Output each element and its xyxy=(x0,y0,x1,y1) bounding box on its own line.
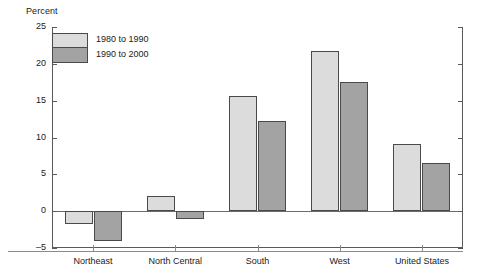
y-tick-5 xyxy=(458,174,463,175)
y-tick-5 xyxy=(52,174,57,175)
y-tick-15 xyxy=(458,101,463,102)
y-tick-10 xyxy=(458,138,463,139)
bar xyxy=(311,51,339,211)
legend-label-1980-1990: 1980 to 1990 xyxy=(96,32,149,47)
category-label-south: South xyxy=(246,256,270,266)
category-tick xyxy=(340,245,341,251)
bar xyxy=(393,144,421,211)
legend-label-group: 1980 to 1990 1990 to 2000 xyxy=(96,32,149,62)
category-tick xyxy=(422,245,423,251)
y-tick-0 xyxy=(458,211,463,212)
category-tick xyxy=(93,245,94,251)
y-tick--5 xyxy=(52,248,57,249)
category-axis-lead xyxy=(8,251,52,252)
bar-chart: Percent 2520151050–5 NortheastNorth Cent… xyxy=(0,0,488,277)
bar xyxy=(147,196,175,211)
legend-label-1990-2000: 1990 to 2000 xyxy=(96,47,149,62)
category-label-united-states: United States xyxy=(395,256,449,266)
y-tick--5 xyxy=(458,248,463,249)
y-tick-label-25: 25 xyxy=(20,21,46,31)
bar xyxy=(422,163,450,212)
y-tick-25 xyxy=(458,27,463,28)
y-tick-label-10: 10 xyxy=(20,132,46,142)
legend-swatch-box xyxy=(52,33,88,63)
y-tick-label-15: 15 xyxy=(20,95,46,105)
y-tick-25 xyxy=(52,27,57,28)
y-tick-label-5: 5 xyxy=(20,168,46,178)
y-tick-0 xyxy=(52,211,57,212)
legend-swatch-1990-2000 xyxy=(53,48,87,62)
category-label-northeast: Northeast xyxy=(74,256,113,266)
category-tick xyxy=(175,245,176,251)
category-tick xyxy=(258,245,259,251)
bar xyxy=(65,211,93,224)
y-tick-label-0: 0 xyxy=(20,205,46,215)
y-axis-title: Percent xyxy=(26,6,58,16)
bar xyxy=(94,211,122,241)
y-tick-20 xyxy=(52,64,57,65)
bar xyxy=(258,121,286,212)
y-tick-10 xyxy=(52,138,57,139)
y-tick-label-20: 20 xyxy=(20,58,46,68)
y-tick-20 xyxy=(458,64,463,65)
bar xyxy=(340,82,368,211)
category-label-west: West xyxy=(330,256,350,266)
category-axis xyxy=(52,251,463,252)
category-label-north-central: North Central xyxy=(149,256,203,266)
bar xyxy=(176,211,204,219)
bar xyxy=(229,96,257,211)
legend-swatch-1980-1990 xyxy=(53,34,87,48)
y-tick-15 xyxy=(52,101,57,102)
